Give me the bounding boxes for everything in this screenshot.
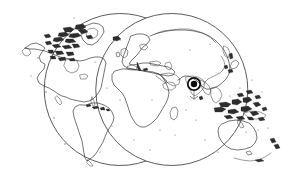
southern-ocean-fringe [234,153,271,161]
map-canvas [0,0,293,180]
tasmania [246,151,252,155]
new-zealand [270,138,280,149]
world-map-figure [0,0,293,180]
south-america-detail [87,160,93,166]
marker-dot [191,81,197,87]
southern-islet [255,159,264,162]
